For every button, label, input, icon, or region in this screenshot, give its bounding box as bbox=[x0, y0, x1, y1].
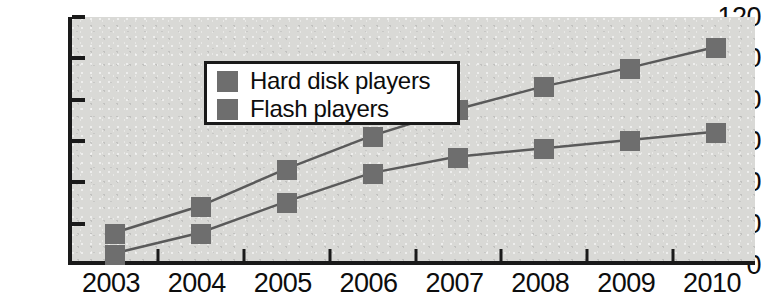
x-axis-tick-label: 2004 bbox=[168, 270, 226, 297]
legend-label-hard-disk-players: Hard disk players bbox=[250, 69, 430, 93]
legend-label-flash-players: Flash players bbox=[250, 97, 389, 121]
data-point-marker bbox=[105, 245, 125, 265]
x-axis-tick-label: 2003 bbox=[82, 270, 140, 297]
data-point-marker bbox=[191, 197, 211, 217]
data-point-marker bbox=[448, 148, 468, 168]
x-axis-tick-label: 2008 bbox=[511, 270, 569, 297]
data-point-marker bbox=[534, 139, 554, 159]
x-axis-tick-label: 2009 bbox=[597, 270, 655, 297]
data-point-marker bbox=[277, 160, 297, 180]
legend-swatch-flash-players bbox=[217, 99, 238, 120]
data-point-marker bbox=[363, 127, 383, 147]
legend-item-hard-disk-players: Hard disk players bbox=[217, 67, 457, 95]
data-point-marker bbox=[191, 224, 211, 244]
legend: Hard disk players Flash players bbox=[204, 61, 460, 125]
x-axis-tick-label: 2006 bbox=[340, 270, 398, 297]
data-point-marker bbox=[706, 123, 726, 143]
legend-swatch-hard-disk-players bbox=[217, 71, 238, 92]
data-point-marker bbox=[620, 59, 640, 79]
series-lines bbox=[72, 17, 755, 264]
x-axis-tick-label: 2010 bbox=[683, 270, 741, 297]
data-point-marker bbox=[706, 38, 726, 58]
data-point-marker bbox=[105, 224, 125, 244]
line-chart: 020406080100120 Hard disk players Flash … bbox=[0, 0, 761, 303]
data-point-marker bbox=[363, 164, 383, 184]
data-point-marker bbox=[534, 77, 554, 97]
legend-item-flash-players: Flash players bbox=[217, 95, 457, 123]
x-axis-tick-label: 2005 bbox=[254, 270, 312, 297]
data-point-marker bbox=[277, 193, 297, 213]
x-axis-tick-label: 2007 bbox=[425, 270, 483, 297]
plot-area: Hard disk players Flash players bbox=[68, 17, 755, 265]
data-point-marker bbox=[620, 131, 640, 151]
